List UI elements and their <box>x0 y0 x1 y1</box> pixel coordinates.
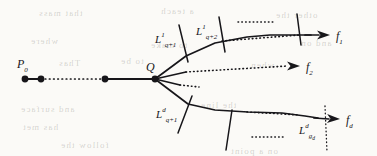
label-transversal-bottom-1-sup: d <box>162 106 166 114</box>
label-transversal-bottom-1-sub: q+1 <box>166 116 178 124</box>
label-fd-sub: d <box>349 122 353 130</box>
label-f2: f2 <box>306 57 313 75</box>
label-transversal-bottom-last-sup: d <box>305 122 309 130</box>
tv-bot-2 <box>226 110 232 150</box>
label-q: Q <box>146 57 155 75</box>
label-transversal-bottom-1: Ldq+1 <box>156 104 177 122</box>
branch-f2-arrowhead <box>287 61 300 70</box>
branch-f1-solid <box>155 35 311 79</box>
tv-bot-last <box>325 106 327 152</box>
vertex-q <box>152 76 159 83</box>
diagram-canvas <box>0 0 377 156</box>
vertex-p0 <box>22 76 29 83</box>
label-transversal-top-2-sub: q+2 <box>206 33 218 41</box>
label-p0-sub: 0 <box>24 66 28 74</box>
label-f1-sub: 1 <box>339 38 343 46</box>
label-transversal-top-2: L1q+2 <box>196 21 217 39</box>
vertex-p1 <box>38 76 45 83</box>
label-q-base: Q <box>146 60 155 74</box>
tv-top-1 <box>179 25 188 62</box>
label-transversal-top-1: L1q+1 <box>155 29 176 47</box>
branch-stub-dotted <box>180 85 199 87</box>
label-p0: P0 <box>17 54 28 72</box>
label-transversal-bottom-last-subsub: d <box>312 136 315 142</box>
label-f2-sub: 2 <box>309 69 313 77</box>
label-f1: f1 <box>336 26 343 44</box>
branch-paths <box>155 35 329 119</box>
label-transversal-top-1-sub: q+1 <box>165 41 177 49</box>
figure-container: that massa teachother thewhereto makeand… <box>0 0 377 156</box>
label-transversal-bottom-last-sub: gd <box>309 132 315 140</box>
tv-top-3 <box>297 14 301 45</box>
tv-top-2 <box>219 17 225 52</box>
branch-f2-dotted <box>186 66 288 72</box>
vertex-p2 <box>102 76 109 83</box>
label-fd: fd <box>346 110 353 128</box>
label-transversal-top-2-sup: 1 <box>202 23 206 31</box>
label-transversal-bottom-last: Ldgd <box>299 120 315 139</box>
label-transversal-top-1-sup: 1 <box>161 31 165 39</box>
branch-fd-arrowstem <box>314 118 329 119</box>
branch-arrowheads <box>287 30 340 123</box>
